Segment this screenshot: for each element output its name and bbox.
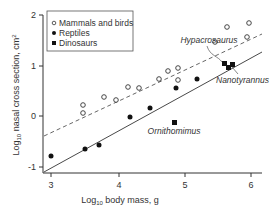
- xtick-label: 5: [182, 180, 187, 190]
- xtick-label: 6: [248, 180, 253, 190]
- xtick-label: 4: [116, 180, 121, 190]
- x-axis-label: Log10 body mass, g: [81, 195, 159, 206]
- ytick-label: 2: [31, 10, 36, 20]
- legend-label-reptiles: Reptiles: [59, 28, 90, 38]
- ytick-label: 0: [31, 111, 36, 121]
- nanotyrannus-leader: [232, 67, 238, 74]
- filled-circle-icon: [52, 31, 56, 35]
- xtick-label: 3: [48, 180, 53, 190]
- legend-label-dinosaurs: Dinosaurs: [59, 38, 97, 48]
- hypacrosaurus-leader: [207, 46, 222, 62]
- annotation-nanotyrannus: Nanotyrannus: [216, 75, 270, 85]
- open-circle-icon: [52, 21, 56, 25]
- series-dinosaurs: [172, 61, 235, 125]
- annotation-ornithomimus: Ornithomimus: [148, 126, 202, 136]
- filled-square-icon: [52, 41, 56, 45]
- ytick-label: 1: [31, 61, 36, 71]
- legend: Mammals and birds Reptiles Dinosaurs: [47, 11, 133, 51]
- annotations: Hypacrosaurus Nanotyrannus Ornithomimus: [148, 35, 270, 136]
- x-axis: 3 4 5 6: [43, 173, 262, 190]
- annotation-hypacrosaurus: Hypacrosaurus: [180, 35, 238, 45]
- y-axis-label: Log10 nasal cross section, cm2: [11, 34, 22, 156]
- series-reptiles: [49, 77, 200, 159]
- y-axis: 2 1 0 -1: [28, 10, 43, 173]
- ytick-label: -1: [28, 162, 36, 172]
- legend-label-mammals: Mammals and birds: [59, 18, 133, 28]
- scatter-chart: 2 1 0 -1 3 4 5 6 Log10 body mass, g Log1…: [0, 0, 274, 216]
